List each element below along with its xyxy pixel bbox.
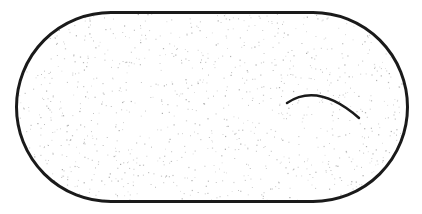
stadium-diagram [0,0,422,214]
stadium-shape-fill [17,13,408,202]
